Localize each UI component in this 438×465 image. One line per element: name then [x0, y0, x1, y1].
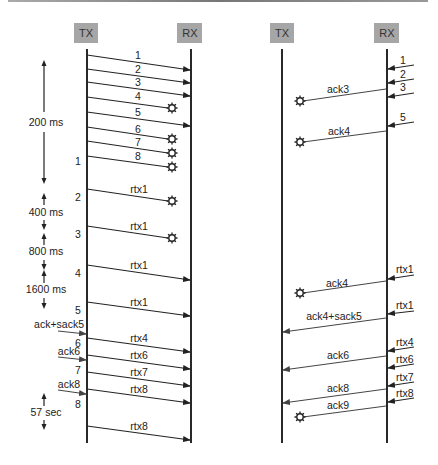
incoming-label: 2 — [400, 68, 406, 80]
msg-label: rtx8 — [130, 383, 148, 395]
ack-label: ack4+sack5 — [306, 310, 362, 322]
msg-label: 8 — [135, 150, 141, 162]
msg-label: 1 — [135, 49, 141, 61]
loss-icon — [167, 162, 178, 173]
loss-icon — [167, 134, 178, 145]
msg-label: rtx1 — [130, 259, 148, 271]
ack-label: ack4 — [328, 125, 350, 137]
ack-label: ack8 — [327, 382, 349, 394]
incoming-label: rtx1 — [396, 299, 414, 311]
ack-label: ack6 — [327, 349, 349, 361]
left-diagram: TX RX — [26, 23, 202, 443]
timeout-marker: 8 — [75, 398, 81, 410]
interval-label: 400 ms — [29, 206, 63, 218]
loss-icon — [167, 148, 178, 159]
timeout-marker: 2 — [75, 191, 81, 203]
incoming-label: 5 — [400, 111, 406, 123]
incoming-ack-label: ack+sack5 — [34, 318, 84, 330]
incoming-label: rtx4 — [396, 336, 414, 348]
ack-label: ack3 — [327, 83, 349, 95]
msg-label: 6 — [135, 123, 141, 135]
timeout-marker: 1 — [75, 155, 81, 167]
interval-label: 800 ms — [29, 245, 63, 257]
tx-label: TX — [79, 27, 94, 39]
timeout-marker: 7 — [75, 364, 81, 376]
interval-label: 200 ms — [29, 116, 63, 128]
timeout-marker: 4 — [75, 267, 81, 279]
loss-icon — [167, 196, 178, 207]
tx-label: TX — [275, 27, 290, 39]
msg-label: rtx8 — [130, 420, 148, 432]
loss-icon — [295, 96, 306, 107]
sequence-diagrams: TX RX — [0, 0, 438, 465]
msg-label: 3 — [135, 76, 141, 88]
loss-icon — [167, 103, 178, 114]
interval-label: 57 sec — [31, 406, 62, 418]
interval-label: 1600 ms — [26, 283, 66, 295]
msg-label: 4 — [135, 90, 141, 102]
ack-label: ack9 — [327, 399, 349, 411]
incoming-label: 1 — [400, 54, 406, 66]
rx-label: RX — [182, 27, 198, 39]
loss-icon — [295, 288, 306, 299]
msg-label: rtx1 — [130, 220, 148, 232]
msg-label: rtx1 — [130, 183, 148, 195]
incoming-ack-label: ack8 — [58, 378, 80, 390]
incoming-label: rtx6 — [396, 353, 414, 365]
msg-label: rtx1 — [130, 296, 148, 308]
incoming-label: rtx8 — [396, 387, 414, 399]
loss-icon — [167, 233, 178, 244]
timeout-marker: 3 — [75, 228, 81, 240]
incoming-label: rtx1 — [396, 263, 414, 275]
msg-label: 5 — [135, 106, 141, 118]
incoming-label: 3 — [400, 81, 406, 93]
msg-label: rtx4 — [130, 332, 148, 344]
msg-label: 7 — [135, 136, 141, 148]
msg-label: rtx6 — [130, 349, 148, 361]
right-diagram: TX RX 1 2 3 5 rtx1 rtx1 rtx4 rtx6 r — [270, 23, 414, 443]
msg-label: rtx7 — [130, 366, 148, 378]
ack-label: ack4 — [326, 277, 348, 289]
timeout-marker: 5 — [75, 304, 81, 316]
incoming-ack-label: ack6 — [58, 345, 80, 357]
incoming-label: rtx7 — [396, 371, 414, 383]
loss-icon — [295, 137, 306, 148]
rx-label: RX — [379, 27, 395, 39]
msg-label: 2 — [135, 63, 141, 75]
loss-icon — [295, 412, 306, 423]
